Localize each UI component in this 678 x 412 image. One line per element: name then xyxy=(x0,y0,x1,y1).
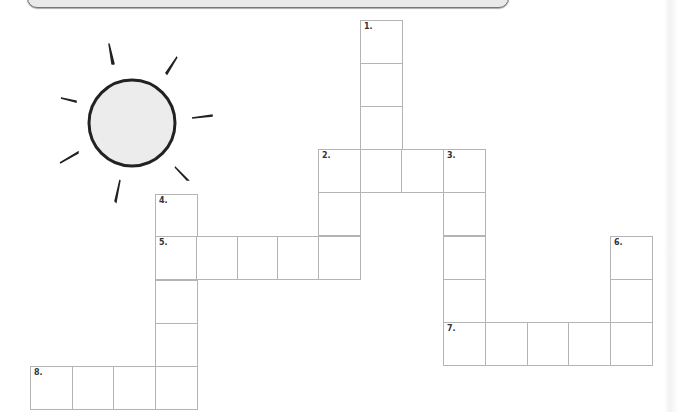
crossword-cell[interactable]: 7. xyxy=(443,322,486,366)
crossword-cell[interactable] xyxy=(568,322,611,366)
crossword-cell[interactable]: 6. xyxy=(610,236,653,280)
crossword-cell[interactable]: 4. xyxy=(155,194,198,238)
crossword-cell[interactable] xyxy=(360,106,403,150)
crossword-cell[interactable] xyxy=(237,236,280,280)
crossword-cell[interactable] xyxy=(443,279,486,323)
clue-number: 2. xyxy=(322,152,331,160)
crossword-cell[interactable] xyxy=(443,192,486,236)
crossword-cell[interactable] xyxy=(155,366,198,410)
page-edge xyxy=(664,0,678,412)
crossword-cell[interactable] xyxy=(527,322,570,366)
crossword-cell[interactable] xyxy=(196,236,239,280)
crossword-cell[interactable] xyxy=(113,366,156,410)
clue-number: 3. xyxy=(447,152,456,160)
clue-number: 1. xyxy=(364,23,373,31)
header-bar xyxy=(27,0,509,8)
clue-number: 8. xyxy=(34,369,43,377)
sun-icon xyxy=(40,30,230,210)
crossword-cell[interactable] xyxy=(360,63,403,107)
crossword-cell[interactable] xyxy=(318,192,361,236)
crossword-cell[interactable] xyxy=(360,149,403,193)
crossword-cell[interactable]: 2. xyxy=(318,149,361,193)
crossword-cell[interactable]: 5. xyxy=(155,236,198,280)
crossword-cell[interactable]: 1. xyxy=(360,20,403,64)
crossword-cell[interactable] xyxy=(155,323,198,367)
clue-number: 6. xyxy=(614,239,623,247)
crossword-cell[interactable] xyxy=(277,236,320,280)
crossword-cell[interactable] xyxy=(318,236,361,280)
clue-number: 7. xyxy=(447,325,456,333)
clue-number: 4. xyxy=(159,197,168,205)
crossword-cell[interactable]: 8. xyxy=(30,366,73,410)
crossword-cell[interactable] xyxy=(155,280,198,324)
crossword-cell[interactable] xyxy=(443,236,486,280)
crossword-cell[interactable]: 3. xyxy=(443,149,486,193)
crossword-cell[interactable] xyxy=(485,322,528,366)
crossword-cell[interactable] xyxy=(401,149,444,193)
crossword-cell[interactable] xyxy=(72,366,115,410)
crossword-cell[interactable] xyxy=(610,279,653,323)
crossword-cell[interactable] xyxy=(610,322,653,366)
clue-number: 5. xyxy=(159,239,168,247)
